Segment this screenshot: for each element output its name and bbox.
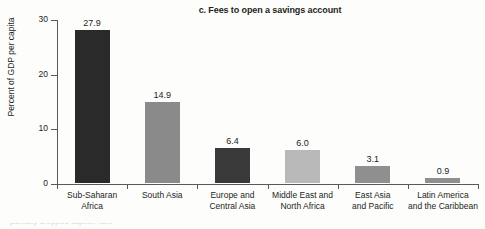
bar: 6.4 bbox=[215, 148, 250, 183]
chart-title: c. Fees to open a savings account bbox=[60, 5, 480, 15]
bar: 0.9 bbox=[425, 178, 460, 183]
category-label: South Asia bbox=[127, 190, 197, 201]
y-tick-mark bbox=[51, 75, 57, 76]
bar-value-label: 6.4 bbox=[226, 136, 239, 146]
category-label-line: Sub-Saharan bbox=[57, 190, 127, 201]
x-axis-tick bbox=[268, 184, 269, 189]
x-axis-tick bbox=[57, 184, 58, 189]
category-label-line: North Africa bbox=[268, 201, 338, 212]
cropped-caption: partially cropped caption text bbox=[10, 223, 340, 227]
y-axis-tick: 10 bbox=[51, 129, 57, 130]
category-label-line: East Asia bbox=[338, 190, 408, 201]
category-label-line: Latin America bbox=[408, 190, 478, 201]
category-label-line: and the Caribbean bbox=[408, 201, 478, 212]
category-label-line: Europe and bbox=[197, 190, 267, 201]
y-axis-line bbox=[57, 20, 58, 185]
bar: 27.9 bbox=[75, 30, 110, 183]
bar: 14.9 bbox=[145, 102, 180, 183]
bar: 6.0 bbox=[285, 150, 320, 183]
bar-value-label: 6.0 bbox=[296, 138, 309, 148]
y-tick-label: 20 bbox=[39, 69, 48, 79]
y-axis-tick: 20 bbox=[51, 75, 57, 76]
category-label-line: Africa bbox=[57, 201, 127, 212]
x-axis-tick bbox=[408, 184, 409, 189]
x-axis-tick bbox=[338, 184, 339, 189]
x-axis-tick bbox=[197, 184, 198, 189]
category-label: Latin Americaand the Caribbean bbox=[408, 190, 478, 211]
category-label: Europe andCentral Asia bbox=[197, 190, 267, 211]
y-axis-label: Percent of GDP per capita bbox=[6, 2, 16, 132]
x-axis-tick bbox=[478, 184, 479, 189]
category-label-line: and Pacific bbox=[338, 201, 408, 212]
category-label: Middle East andNorth Africa bbox=[268, 190, 338, 211]
category-label: Sub-SaharanAfrica bbox=[57, 190, 127, 211]
bar: 3.1 bbox=[355, 166, 390, 183]
y-tick-label: 10 bbox=[39, 123, 48, 133]
y-tick-mark bbox=[51, 129, 57, 130]
category-label-line: Central Asia bbox=[197, 201, 267, 212]
bar-value-label: 27.9 bbox=[83, 18, 101, 28]
chart-figure: c. Fees to open a savings account Percen… bbox=[0, 0, 485, 229]
y-axis-tick: 30 bbox=[51, 20, 57, 21]
x-axis-tick bbox=[127, 184, 128, 189]
category-label-line: South Asia bbox=[127, 190, 197, 201]
y-tick-mark bbox=[51, 20, 57, 21]
bar-value-label: 3.1 bbox=[366, 154, 379, 164]
bar-value-label: 14.9 bbox=[153, 90, 171, 100]
category-label-line: Middle East and bbox=[268, 190, 338, 201]
category-label: East Asiaand Pacific bbox=[338, 190, 408, 211]
bar-value-label: 0.9 bbox=[437, 166, 450, 176]
y-tick-label: 30 bbox=[39, 14, 48, 24]
plot-area: 0102030 27.914.96.46.03.10.9 bbox=[57, 20, 478, 184]
y-tick-label: 0 bbox=[43, 178, 48, 188]
